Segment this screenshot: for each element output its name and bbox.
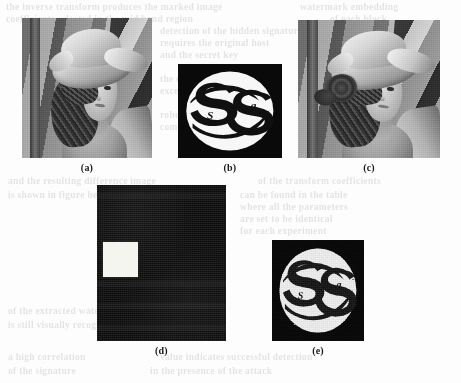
ss-logo-extracted-noisy: S g bbox=[272, 240, 364, 341]
ghost-text-line: the inverse transform produces the marke… bbox=[6, 2, 223, 12]
figure-page: the inverse transform produces the marke… bbox=[0, 0, 461, 383]
lena-original-rendering bbox=[22, 18, 152, 158]
panel-d-caption: (d) bbox=[97, 345, 226, 356]
ghost-text-line: watermark embedding bbox=[300, 2, 398, 12]
ghost-text-line: of the transform coefficients bbox=[258, 176, 381, 186]
ss-logo-glyphs-icon: S g bbox=[178, 64, 282, 158]
lena-watermarked-rendering bbox=[298, 20, 440, 158]
ghost-text-line: of the signature bbox=[8, 366, 76, 376]
difference-map-rendering bbox=[97, 185, 226, 341]
ghost-text-line: a high correlation bbox=[8, 352, 86, 362]
ss-logo-binary: S g bbox=[178, 64, 282, 158]
ghost-text-line: in the presence of the attack bbox=[150, 366, 272, 376]
svg-text:g: g bbox=[335, 279, 342, 291]
ghost-text-line: and the secret key bbox=[160, 50, 238, 60]
panel-d-difference-map bbox=[97, 185, 226, 341]
svg-text:S: S bbox=[298, 289, 304, 301]
panel-b-caption: (b) bbox=[178, 162, 282, 173]
ghost-text-line: are set to be identical bbox=[240, 214, 333, 224]
ghost-text-line: detection of the hidden signature bbox=[160, 26, 303, 36]
ghost-text-line: requires the original host bbox=[160, 38, 270, 48]
ghost-text-line: for each experiment bbox=[240, 226, 327, 236]
panel-c-caption: (c) bbox=[298, 162, 440, 173]
panel-a-original-image bbox=[22, 18, 152, 158]
panel-e-extracted-watermark: S g bbox=[272, 240, 364, 341]
svg-text:S: S bbox=[207, 109, 213, 120]
ghost-text-line: where all the parameters bbox=[240, 202, 348, 212]
svg-text:g: g bbox=[250, 100, 257, 111]
panel-c-watermarked-image bbox=[298, 20, 440, 158]
panel-e-caption: (e) bbox=[272, 345, 364, 356]
ghost-text-line: can be found in the table bbox=[240, 190, 348, 200]
panel-b-watermark-logo: S g bbox=[178, 64, 282, 158]
panel-a-caption: (a) bbox=[22, 162, 152, 173]
ss-logo-glyphs-icon: S g bbox=[272, 240, 364, 341]
difference-highlight-square bbox=[103, 242, 138, 277]
